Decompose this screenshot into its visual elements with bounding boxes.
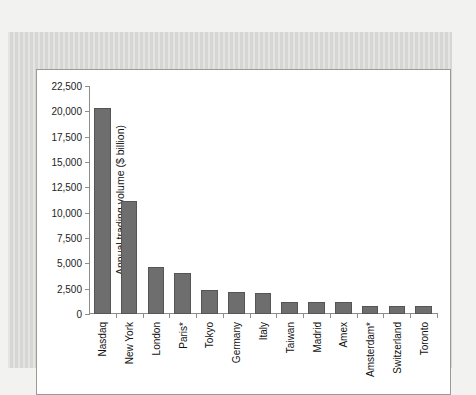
bar[interactable] <box>255 293 272 314</box>
x-tick-label: Nasdaq <box>97 322 108 356</box>
bar-item[interactable]: New York <box>121 86 138 314</box>
x-tick-label: Madrid <box>311 322 322 353</box>
bar[interactable] <box>389 306 406 314</box>
bar-item[interactable]: Paris* <box>174 86 191 314</box>
y-tick-label: 0 <box>76 309 82 320</box>
x-tick-mark <box>383 314 384 318</box>
bar[interactable] <box>228 292 245 314</box>
y-tick-label: 2,500 <box>57 283 82 294</box>
bar[interactable] <box>415 306 432 314</box>
bar[interactable] <box>308 302 325 314</box>
x-tick-mark <box>143 314 144 318</box>
x-tick-label: Switzerland <box>391 322 402 374</box>
y-tick-label: 20,000 <box>51 106 82 117</box>
x-tick-mark <box>196 314 197 318</box>
bar[interactable] <box>281 302 298 314</box>
bar-item[interactable]: Italy <box>255 86 272 314</box>
bar-item[interactable]: Tokyo <box>201 86 218 314</box>
x-tick-label: London <box>150 322 161 355</box>
bar-item[interactable]: Amex <box>335 86 352 314</box>
y-tick-label: 17,500 <box>51 131 82 142</box>
x-tick-mark <box>303 314 304 318</box>
x-tick-mark <box>116 314 117 318</box>
y-tick-label: 15,000 <box>51 157 82 168</box>
bar-item[interactable]: Switzerland <box>389 86 406 314</box>
bar-series: NasdaqNew YorkLondonParis*TokyoGermanyIt… <box>89 86 437 314</box>
x-tick-mark <box>169 314 170 318</box>
bar[interactable] <box>362 306 379 314</box>
plot-area: Annual trading volume ($ billion) 22,500… <box>89 86 437 314</box>
bar[interactable] <box>335 302 352 314</box>
x-tick-label: Amex <box>338 322 349 348</box>
y-tick-label: 5,000 <box>57 258 82 269</box>
x-tick-mark <box>410 314 411 318</box>
x-tick-label: Taiwan <box>284 322 295 353</box>
y-tick-label: 10,000 <box>51 207 82 218</box>
bar[interactable] <box>94 108 111 314</box>
bar[interactable] <box>121 201 138 314</box>
x-tick-mark <box>276 314 277 318</box>
bar-item[interactable]: Amsterdam* <box>362 86 379 314</box>
x-tick-label: New York <box>124 322 135 364</box>
x-tick-label: Italy <box>257 322 268 340</box>
bar-item[interactable]: Germany <box>228 86 245 314</box>
bar-item[interactable]: Madrid <box>308 86 325 314</box>
x-tick-label: Tokyo <box>204 322 215 348</box>
x-tick-label: Amsterdam* <box>365 322 376 377</box>
x-tick-label: Toronto <box>418 322 429 355</box>
bar[interactable] <box>201 290 218 314</box>
y-tick-mark <box>85 314 89 315</box>
x-tick-mark <box>330 314 331 318</box>
x-tick-label: Germany <box>231 322 242 363</box>
x-tick-mark <box>250 314 251 318</box>
figure-plate: Annual trading volume ($ billion) 22,500… <box>8 32 452 368</box>
y-tick-label: 12,500 <box>51 182 82 193</box>
x-tick-mark <box>437 314 438 318</box>
x-tick-label: Paris* <box>177 322 188 349</box>
x-tick-mark <box>223 314 224 318</box>
bar-item[interactable]: Nasdaq <box>94 86 111 314</box>
x-tick-mark <box>357 314 358 318</box>
y-tick-label: 7,500 <box>57 233 82 244</box>
bar-item[interactable]: Taiwan <box>281 86 298 314</box>
bar-item[interactable]: London <box>148 86 165 314</box>
bar-item[interactable]: Toronto <box>415 86 432 314</box>
bar[interactable] <box>174 273 191 314</box>
y-tick-label: 22,500 <box>51 81 82 92</box>
bar[interactable] <box>148 267 165 314</box>
chart-frame: Annual trading volume ($ billion) 22,500… <box>36 69 451 395</box>
